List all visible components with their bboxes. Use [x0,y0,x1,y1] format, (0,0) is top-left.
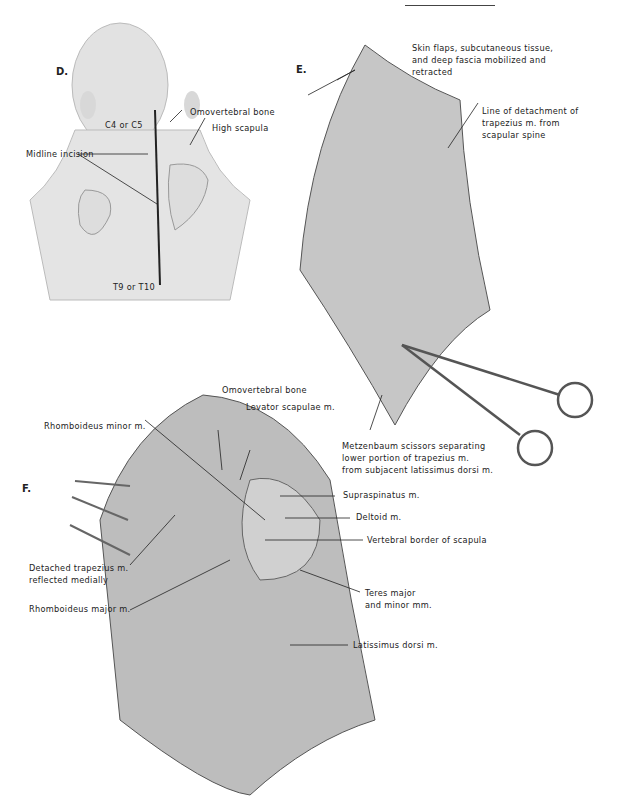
annotation-teres-1: Teres major [365,588,416,599]
annotation-vertebral-border: Vertebral border of scapula [367,535,487,546]
panel-label-f: F. [22,483,31,494]
annotation-supraspinatus: Supraspinatus m. [343,490,420,501]
annotation-metzenbaum-2: lower portion of trapezius m. [342,453,469,464]
annotation-midline-incision: Midline incision [26,149,94,160]
annotation-metzenbaum-3: from subjacent latissimus dorsi m. [342,465,493,476]
annotation-latissimus-dorsi: Latissimus dorsi m. [353,640,438,651]
annotation-skin-flaps-3: retracted [412,67,452,78]
annotation-line-detachment-2: trapezius m. from [482,118,560,129]
annotation-detached-trapezius-1: Detached trapezius m. [29,563,128,574]
annotation-rhomboideus-minor: Rhomboideus minor m. [44,421,146,432]
annotation-line-detachment-1: Line of detachment of [482,106,579,117]
annotation-c4-c5: C4 or C5 [105,120,143,131]
annotation-skin-flaps-1: Skin flaps, subcutaneous tissue, [412,43,553,54]
panel-d-figure [30,23,250,300]
annotation-teres-2: and minor mm. [365,600,432,611]
annotation-metzenbaum-1: Metzenbaum scissors separating [342,441,485,452]
annotation-detached-trapezius-2: reflected medially [29,575,108,586]
annotation-omovertebral-bone-f: Omovertebral bone [222,385,307,396]
annotation-rhomboideus-major: Rhomboideus major m. [29,604,130,615]
annotation-deltoid: Deltoid m. [356,512,402,523]
annotation-omovertebral-bone-d: Omovertebral bone [190,107,275,118]
annotation-high-scapula: High scapula [212,123,268,134]
annotation-skin-flaps-2: and deep fascia mobilized and [412,55,546,66]
panel-label-d: D. [56,66,68,77]
annotation-levator-scapulae: Levator scapulae m. [246,402,335,413]
annotation-t9-t10: T9 or T10 [113,282,155,293]
panel-label-e: E. [296,64,307,75]
annotation-line-detachment-3: scapular spine [482,130,546,141]
